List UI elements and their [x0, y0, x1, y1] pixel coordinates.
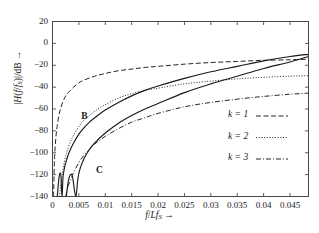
legend-label-3: k = 3 — [228, 152, 248, 162]
y-tick-label: −120 — [10, 169, 48, 179]
y-tick-label: 0 — [10, 37, 48, 47]
y-axis-label: |H(f/fS)|/dB → — [13, 18, 24, 138]
y-tick-label: −40 — [10, 81, 48, 91]
y-tick-label: −80 — [10, 125, 48, 135]
y-tick-label: −100 — [10, 147, 48, 157]
x-tick-label: 0.045 — [268, 200, 312, 210]
y-tick-label: −60 — [10, 103, 48, 113]
figure-container: |H(f/fS)|/dB → f/LfS → 200−20−40−60−80−1… — [0, 0, 319, 233]
plot-frame — [53, 22, 309, 197]
legend-label-2: k = 2 — [228, 131, 248, 141]
y-tick-label: 20 — [10, 16, 48, 26]
x-axis-label: f/LfS → — [0, 210, 319, 221]
annotation-c: C — [96, 165, 103, 175]
annotation-b: B — [81, 111, 87, 121]
y-tick-label: −20 — [10, 59, 48, 69]
legend-label-1: k = 1 — [228, 109, 248, 119]
